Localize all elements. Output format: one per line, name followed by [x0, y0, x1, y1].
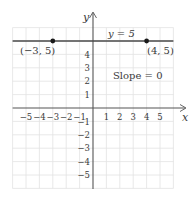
- point-label-neg3-5: (−3, 5): [20, 45, 55, 56]
- slope-annotation: Slope = 0: [113, 70, 163, 81]
- svg-text:3: 3: [130, 112, 135, 122]
- svg-text:5: 5: [157, 112, 162, 122]
- svg-text:−3: −3: [47, 112, 60, 122]
- svg-text:4: 4: [85, 50, 90, 60]
- svg-text:−1: −1: [77, 117, 90, 127]
- svg-text:−2: −2: [77, 130, 90, 140]
- svg-text:−4: −4: [77, 157, 90, 167]
- svg-text:−4: −4: [33, 112, 46, 122]
- graph-canvas: x y −5 −4 −3 −2 −1 1 2 3 4 5 4 3 2 1 −1 …: [0, 0, 195, 199]
- point-4-5: [144, 39, 149, 44]
- svg-text:4: 4: [144, 112, 149, 122]
- equation-label: y = 5: [107, 28, 135, 39]
- svg-text:−5: −5: [77, 170, 90, 180]
- svg-text:−2: −2: [60, 112, 73, 122]
- y-axis: [90, 12, 97, 189]
- svg-text:3: 3: [85, 63, 90, 73]
- svg-text:2: 2: [117, 112, 122, 122]
- y-axis-label: y: [82, 11, 90, 24]
- point-neg3-5: [50, 39, 55, 44]
- x-axis-label: x: [182, 111, 189, 124]
- svg-text:−5: −5: [20, 112, 33, 122]
- point-label-4-5: (4, 5): [147, 45, 174, 56]
- svg-text:1: 1: [85, 90, 90, 100]
- svg-text:2: 2: [85, 76, 90, 86]
- svg-text:1: 1: [104, 112, 109, 122]
- svg-text:−3: −3: [77, 143, 90, 153]
- x-tick-labels: −5 −4 −3 −2 −1 1 2 3 4 5: [20, 112, 163, 122]
